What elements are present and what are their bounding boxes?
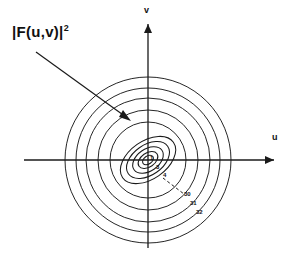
u-axis-arrowhead [265, 156, 274, 164]
outer-contour-label-30: 30 [184, 191, 191, 197]
inner-contour-label-3: 3 [156, 164, 159, 170]
u-axis-label: u [272, 133, 278, 142]
figure-canvas: |F(u,v)|2 v u 1 3 4 30 31 32 [0, 0, 289, 262]
title-magnitude-text: |F(u,v)| [12, 23, 64, 40]
outer-contour-label-32: 32 [196, 209, 203, 215]
page-title: |F(u,v)|2 [12, 24, 69, 39]
title-leader-arrow [36, 52, 131, 121]
v-axis-arrowhead [144, 24, 152, 33]
axes-group [24, 24, 274, 248]
v-axis-label: v [144, 6, 149, 15]
outer-contour-label-31: 31 [190, 200, 197, 206]
inner-contour-label-4: 4 [163, 172, 166, 178]
title-exponent: 2 [64, 23, 69, 33]
contour-30-leader-dashed [163, 178, 184, 194]
inner-contour-label-1: 1 [150, 155, 153, 161]
